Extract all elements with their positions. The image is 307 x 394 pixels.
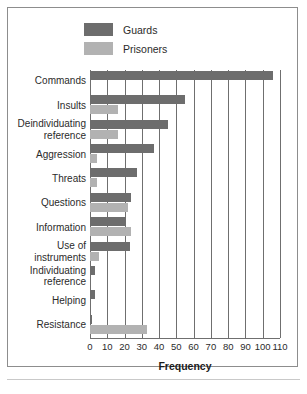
category-label-line: instruments [14,252,86,264]
category-label-line: reference [14,130,86,142]
x-tick-label: 0 [87,341,92,352]
bar-group [90,290,280,314]
bar-guards [90,193,131,202]
category-label: Resistance [14,319,86,331]
bar-prisoners [90,130,118,139]
legend-item-prisoners: Prisoners [84,39,167,58]
bar-group [90,315,280,339]
category-label: Aggression [14,149,86,161]
legend-label-prisoners: Prisoners [123,43,167,55]
category-label: Individuatingreference [14,265,86,288]
category-label-line: Insults [14,100,86,112]
category-label-line: Information [14,222,86,234]
category-label: Helping [14,295,86,307]
x-tick-label: 110 [272,341,287,352]
category-label-line: Use of [14,240,86,252]
x-tick-label: 10 [102,341,113,352]
bar-prisoners [90,178,97,187]
category-label: Questions [14,197,86,209]
chart-figure-frame: Guards Prisoners CommandsInsultsDeindivi… [7,7,298,367]
bar-prisoners [90,154,97,163]
bar-prisoners [90,105,118,114]
bar-group [90,144,280,168]
legend-swatch-guards [84,23,113,36]
x-tick-label: 80 [223,341,234,352]
bar-prisoners [90,252,99,261]
bar-prisoners [90,227,131,236]
x-tick-label: 40 [154,341,165,352]
category-label-line: Resistance [14,319,86,331]
bar-group [90,217,280,241]
x-tick-label: 60 [188,341,199,352]
bar-group [90,71,280,95]
bar-guards [90,71,273,80]
category-label-line: Threats [14,173,86,185]
x-tick-label: 20 [119,341,130,352]
category-label: Use ofinstruments [14,240,86,263]
legend-label-guards: Guards [123,24,157,36]
bar-guards [90,242,130,251]
bar-groups [90,70,280,338]
x-tick-label: 70 [206,341,217,352]
bar-group [90,120,280,144]
x-tick-label: 90 [240,341,251,352]
x-axis-tick-labels: 0102030405060708090100110 [90,341,280,354]
bar-group [90,95,280,119]
gridline [280,70,281,338]
bar-prisoners [90,325,147,334]
bar-guards [90,266,95,275]
bar-group [90,266,280,290]
bar-guards [90,217,126,226]
bar-guards [90,144,154,153]
bar-guards [90,95,185,104]
category-label-line: Questions [14,197,86,209]
x-axis-line [90,338,280,339]
legend-item-guards: Guards [84,20,167,39]
x-tick-label: 100 [255,341,271,352]
footer-divider [7,379,300,380]
category-label: Insults [14,100,86,112]
category-label-line: reference [14,276,86,288]
bar-group [90,168,280,192]
bar-guards [90,315,92,324]
plot-area [90,70,280,338]
category-label-line: Deindividuating [14,118,86,130]
x-tick-label: 50 [171,341,182,352]
chart-legend: Guards Prisoners [84,20,167,58]
category-label-line: Individuating [14,265,86,277]
category-label-line: Commands [14,75,86,87]
bar-group [90,242,280,266]
bar-guards [90,290,95,299]
bar-prisoners [90,203,128,212]
category-label: Deindividuatingreference [14,118,86,141]
category-label-line: Aggression [14,149,86,161]
category-label: Commands [14,75,86,87]
x-tick-label: 30 [137,341,148,352]
bar-guards [90,168,137,177]
legend-swatch-prisoners [84,42,113,55]
category-label: Information [14,222,86,234]
bar-guards [90,120,168,129]
x-axis-title: Frequency [90,360,280,372]
category-label-line: Helping [14,295,86,307]
category-axis-labels: CommandsInsultsDeindividuatingreferenceA… [14,70,86,338]
bar-group [90,193,280,217]
category-label: Threats [14,173,86,185]
